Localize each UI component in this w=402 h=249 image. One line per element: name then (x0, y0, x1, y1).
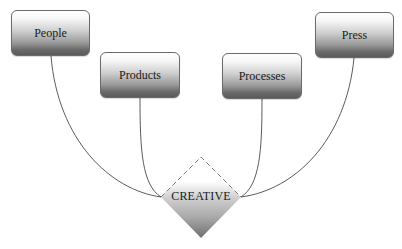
node-products-label: Products (119, 69, 161, 81)
node-people[interactable]: People (11, 10, 90, 56)
creative-label: CREATIVE (161, 189, 241, 204)
node-processes-label: Processes (239, 70, 286, 82)
connector-processes (241, 99, 262, 197)
node-products[interactable]: Products (100, 52, 180, 98)
node-press-label: Press (342, 29, 367, 41)
node-press[interactable]: Press (315, 12, 394, 58)
node-people-label: People (34, 27, 67, 39)
node-processes[interactable]: Processes (222, 53, 302, 99)
connector-products (140, 98, 161, 197)
